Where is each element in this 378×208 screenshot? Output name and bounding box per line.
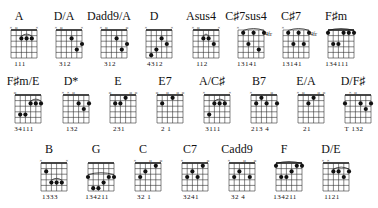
open-string-icon: o (160, 158, 163, 163)
fingering-label: 32 4 (218, 193, 258, 201)
muted-string-icon: × (192, 25, 195, 30)
finger-dot (295, 164, 299, 168)
finger-dot (252, 31, 256, 35)
chord-name: D* (46, 75, 96, 88)
open-string-icon: o (302, 90, 305, 95)
chord-name: Asus4 (176, 10, 226, 23)
muted-string-icon: × (62, 90, 65, 95)
finger-dot (265, 101, 269, 105)
muted-string-icon: × (10, 25, 13, 30)
fingering-label: T 132 (334, 125, 374, 133)
chord-name: F♯m/E (0, 75, 48, 88)
fretboard-grid: o (12, 89, 44, 127)
fretboard-grid: × (280, 24, 312, 62)
fretboard-grid: ×× (38, 157, 70, 195)
finger-dot (279, 175, 283, 179)
muted-string-icon: × (171, 25, 174, 30)
muted-string-icon: × (203, 90, 206, 95)
finger-dot (138, 175, 142, 179)
chord-name: B (24, 143, 74, 156)
finger-dot (70, 36, 74, 40)
fretboard-grid: ×oo (132, 157, 164, 195)
open-string-icon: o (318, 90, 321, 95)
fretboard-grid: ×o× (53, 24, 85, 62)
finger-dot (291, 42, 295, 46)
finger-dot (241, 31, 245, 35)
finger-dot (312, 96, 316, 100)
chord-name: E (93, 75, 143, 88)
fretboard-grid: ooo (107, 89, 139, 127)
finger-dot (29, 101, 33, 105)
finger-dot (19, 36, 23, 40)
chord-name: D/E (306, 143, 356, 156)
fingering-label: 13141 (272, 60, 312, 68)
finger-dot (160, 36, 164, 40)
fingering-label: 134211 (77, 193, 117, 201)
open-string-icon: o (354, 90, 357, 95)
finger-dot (34, 101, 38, 105)
chord-name: F (259, 143, 309, 156)
finger-dot (259, 96, 263, 100)
finger-dot (154, 48, 158, 52)
fretboard-grid: ×o× (8, 24, 40, 62)
muted-string-icon: × (228, 158, 231, 163)
finger-dot (185, 175, 189, 179)
fretboard-grid: ×oo (226, 157, 258, 195)
finger-dot (30, 36, 34, 40)
finger-dot (82, 107, 86, 111)
finger-dot (118, 101, 122, 105)
finger-dot (347, 169, 351, 173)
muted-string-icon: × (67, 90, 70, 95)
fingering-label: 1121 (312, 193, 352, 201)
open-string-icon: o (15, 25, 18, 30)
finger-dot (326, 31, 330, 35)
fretboard-grid: ×ooo (295, 89, 327, 127)
fretboard-grid: ×o× (190, 24, 222, 62)
chord-name: C♯7sus4 (221, 10, 271, 23)
fretboard-grid: ×o (179, 157, 211, 195)
finger-dot (342, 31, 346, 35)
fingering-label: 111 (0, 60, 40, 68)
chord-name: G (71, 143, 121, 156)
chord-name: E/A (281, 75, 331, 88)
fretboard-grid (273, 157, 305, 195)
finger-dot (248, 175, 252, 179)
finger-dot (223, 101, 227, 105)
finger-dot (352, 31, 356, 35)
muted-string-icon: × (250, 90, 253, 95)
finger-dot (343, 101, 347, 105)
finger-dot (171, 96, 175, 100)
chord-name: C (118, 143, 168, 156)
open-string-icon: o (126, 25, 129, 30)
fretboard-grid: oooo (154, 89, 186, 127)
finger-dot (342, 175, 346, 179)
finger-dot (165, 42, 169, 46)
fretboard-grid (325, 24, 357, 62)
finger-dot (160, 101, 164, 105)
finger-dot (212, 42, 216, 46)
finger-dot (331, 42, 335, 46)
chord-name: A/C♯ (187, 75, 237, 88)
open-string-icon: o (149, 158, 152, 163)
finger-dot (284, 175, 288, 179)
open-string-icon: o (105, 25, 108, 30)
fingering-label: 134111 (317, 60, 357, 68)
finger-dot (207, 113, 211, 117)
fingering-label: 132 (52, 125, 92, 133)
open-string-icon: o (135, 90, 138, 95)
muted-string-icon: × (282, 25, 285, 30)
muted-string-icon: × (55, 25, 58, 30)
muted-string-icon: × (229, 90, 232, 95)
open-string-icon: o (254, 158, 257, 163)
chord-name: C♯7 (266, 10, 316, 23)
finger-dot (18, 113, 22, 117)
finger-dot (80, 42, 84, 46)
fingering-label: 312 (45, 60, 85, 68)
chord-name: D/F♯ (328, 75, 378, 88)
muted-string-icon: × (81, 25, 84, 30)
finger-dot (44, 169, 48, 173)
muted-string-icon: × (40, 158, 43, 163)
finger-dot (237, 169, 241, 173)
finger-dot (369, 101, 373, 105)
fingering-label: 213 4 (240, 125, 280, 133)
